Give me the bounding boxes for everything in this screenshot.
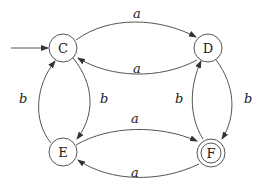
edge-c-d <box>76 22 196 40</box>
edge-label-d-f: b <box>244 91 252 106</box>
edge-f-d <box>192 61 203 139</box>
edge-e-c <box>39 61 55 143</box>
automaton-diagram: a a b b a a b b C D E F <box>0 0 263 188</box>
edge-label-f-d: b <box>175 91 183 106</box>
edge-d-f <box>216 60 232 139</box>
svg-text:F: F <box>206 146 215 161</box>
edge-label-e-c: b <box>19 91 27 106</box>
edge-label-d-c: a <box>133 61 141 76</box>
state-d: D <box>194 34 222 62</box>
state-c: C <box>49 34 77 62</box>
edge-e-f <box>76 129 197 145</box>
edge-c-e <box>73 58 90 139</box>
edge-label-c-e: b <box>100 91 108 106</box>
edge-label-e-f: a <box>131 111 139 126</box>
svg-text:C: C <box>58 41 68 56</box>
edge-label-c-d: a <box>133 6 141 21</box>
svg-text:E: E <box>58 145 68 160</box>
svg-text:D: D <box>203 41 213 56</box>
edge-label-f-e: a <box>131 165 139 180</box>
state-f-accepting: F <box>197 139 225 167</box>
state-e: E <box>49 138 77 166</box>
